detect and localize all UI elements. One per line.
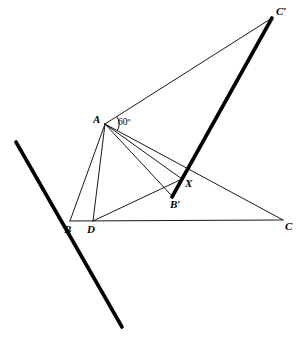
angle-label-60: 60º [118,118,130,128]
segment-Bp-Cp [172,18,272,197]
segment-A-D [93,124,105,221]
thick-line-group [16,18,272,327]
segment-D-X [93,179,182,221]
point-label-D: D [87,224,95,235]
point-label-B: B [64,224,71,235]
segment-A-Bp [105,124,172,196]
point-label-C: C [285,221,292,232]
segment-A-C [105,124,283,220]
geometry-canvas [0,0,300,346]
point-label-X: X [185,178,192,189]
segment-A-B [70,124,105,221]
point-label-A: A [93,114,100,125]
point-label-B-prime: B′ [170,199,180,210]
segment-A-Cp [105,18,272,124]
geometry-figure: A B C D B′ C′ X 60º [0,0,300,346]
segment-B-C [70,220,283,221]
point-label-C-prime: C′ [276,6,286,17]
segment-A-X [105,124,182,179]
